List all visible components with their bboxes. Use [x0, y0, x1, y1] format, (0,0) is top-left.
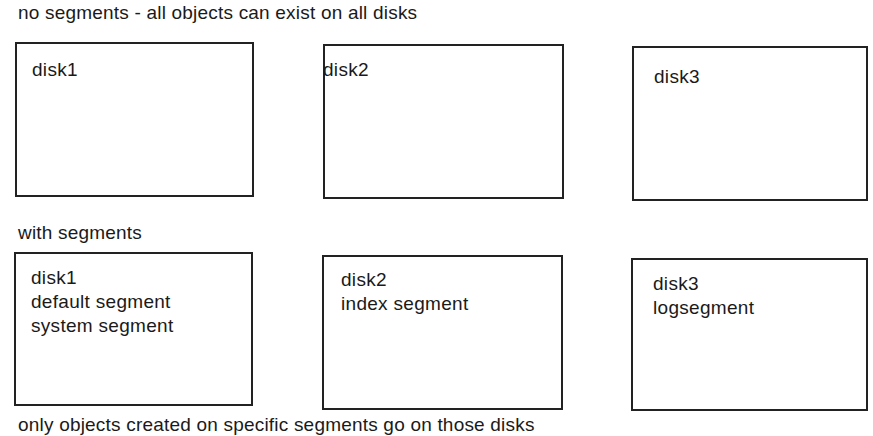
segment-label-log: logsegment: [653, 296, 754, 320]
disk-label: disk2: [323, 58, 369, 82]
disk-box-3-no-segments: disk3: [632, 46, 868, 201]
disk-label: disk2: [341, 268, 468, 292]
disk-box-1-with-segments: disk1 default segment system segment: [14, 252, 253, 406]
disk-box-2-with-segments: disk2 index segment: [322, 255, 563, 410]
caption-footer: only objects created on specific segment…: [18, 414, 535, 436]
segment-label-default: default segment: [31, 290, 174, 314]
disk-label: disk3: [654, 65, 700, 89]
disk-label: disk1: [32, 58, 78, 82]
segment-label-index: index segment: [341, 292, 468, 316]
disk-box-1-no-segments: disk1: [15, 42, 254, 197]
caption-no-segments: no segments - all objects can exist on a…: [18, 2, 417, 24]
caption-with-segments: with segments: [18, 222, 142, 244]
disk-box-3-with-segments: disk3 logsegment: [631, 258, 868, 411]
disk-label: disk3: [653, 272, 754, 296]
disk-box-2-no-segments: disk2: [323, 44, 564, 199]
segment-label-system: system segment: [31, 314, 174, 338]
disk-label: disk1: [31, 266, 174, 290]
